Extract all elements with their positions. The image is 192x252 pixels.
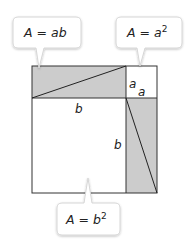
label-b-vertical: b <box>114 138 122 152</box>
label-b-horizontal: b <box>75 102 83 116</box>
label-a-horizontal: a <box>138 85 145 99</box>
label-a-vertical: a <box>129 77 136 91</box>
callout-text-b-squared: A = b2 <box>65 211 107 227</box>
callout-text-a-squared: A = a2 <box>126 24 167 40</box>
area-diagram: a a b b A = ab A = a2 A = b2 <box>0 0 192 252</box>
callout-text-ab: A = ab <box>23 25 67 40</box>
